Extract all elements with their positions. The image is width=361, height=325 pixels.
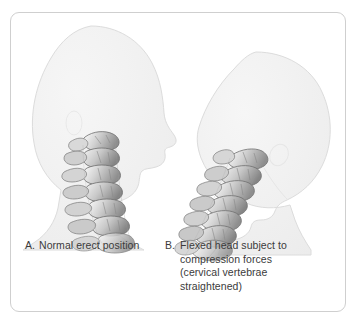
flexed-head-posture-figure [175,52,330,261]
caption-a-marker: A. [25,239,35,253]
normal-erect-posture-figure [23,26,176,253]
caption-a-line-1: Normal erect position [39,239,139,253]
caption-b-line-1: Flexed head subject to [180,239,287,253]
caption-b-lines: Flexed head subject to compression force… [180,239,287,293]
caption-b: B. Flexed head subject to compression fo… [165,239,287,293]
figure-panel: A. Normal erect position B. Flexed head … [10,12,346,312]
caption-b-line-2: compression forces [180,253,287,267]
caption-b-line-3: (cervical vertebrae [180,266,287,280]
caption-b-marker: B. [165,239,175,293]
caption-a: A. Normal erect position [25,239,139,253]
caption-b-line-4: straightened) [180,280,287,294]
caption-a-lines: Normal erect position [39,239,139,253]
